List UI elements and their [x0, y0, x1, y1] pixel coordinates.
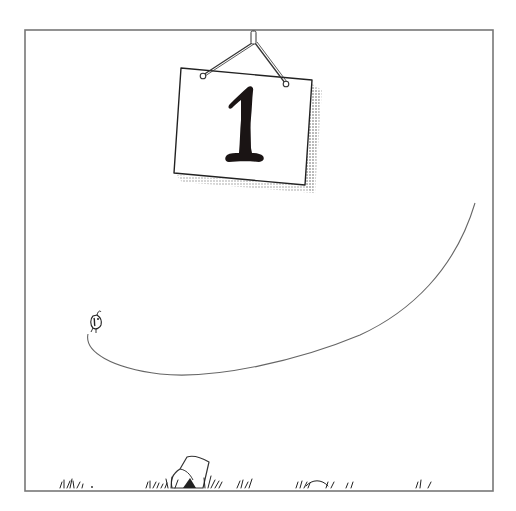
panel-illustration [0, 0, 516, 511]
hanger-knot [251, 31, 256, 44]
hook-ring-left [200, 73, 206, 79]
hook-ring-right [283, 81, 289, 87]
comic-panel: 1 [0, 0, 516, 511]
